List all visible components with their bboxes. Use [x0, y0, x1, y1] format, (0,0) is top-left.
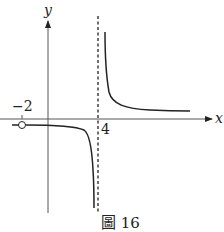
y-axis-label: y — [43, 2, 53, 18]
right-branch-curve — [105, 32, 190, 111]
function-graph: y x −2 4 圖 16 — [0, 0, 224, 232]
hole-open-circle — [19, 122, 26, 129]
left-branch-curve — [12, 125, 94, 208]
figure-caption: 圖 16 — [101, 214, 140, 232]
tick-label-four: 4 — [101, 121, 110, 137]
tick-label-neg-two: −2 — [12, 98, 33, 114]
x-axis-label: x — [215, 110, 223, 126]
